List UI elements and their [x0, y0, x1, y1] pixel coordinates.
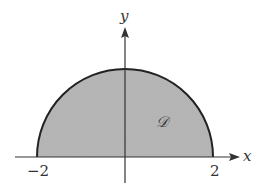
tick-label-2: 2	[210, 162, 220, 180]
x-axis-label: x	[243, 147, 252, 165]
diagram-canvas: y x −2 2 𝒟	[0, 0, 257, 187]
tick-label-neg2: −2	[27, 162, 49, 180]
y-axis-label: y	[119, 7, 129, 25]
